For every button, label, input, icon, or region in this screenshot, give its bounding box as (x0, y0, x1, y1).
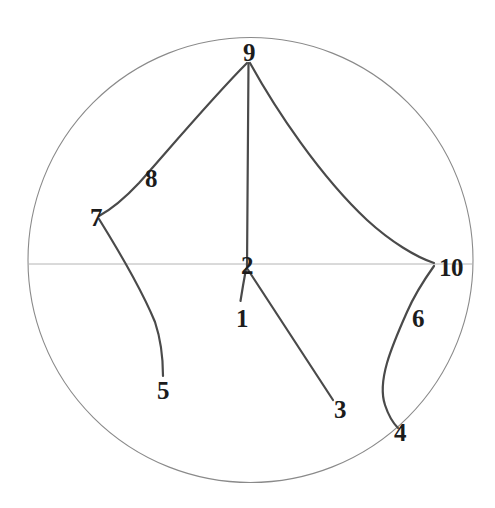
geodesic-edge-2-3 (248, 269, 334, 400)
geodesic-edge-9-7 (99, 63, 247, 216)
node-label-6: 6 (412, 306, 424, 331)
node-label-7: 7 (90, 205, 102, 230)
geodesic-edge-9-10 (250, 63, 434, 263)
geodesic-edge-7-5 (99, 219, 163, 376)
geodesic-edge-10-4 (383, 266, 434, 428)
node-label-9: 9 (243, 40, 255, 65)
node-label-10: 10 (439, 255, 463, 280)
node-label-8: 8 (145, 166, 157, 191)
geodesic-edge-2-9 (247, 63, 249, 268)
node-label-5: 5 (157, 378, 169, 403)
node-label-1: 1 (236, 306, 248, 331)
node-label-3: 3 (334, 397, 346, 422)
node-label-2: 2 (241, 253, 253, 278)
node-label-4: 4 (394, 420, 406, 445)
geodesic-group (99, 63, 434, 428)
hyperbolic-disk-figure: 1 2 3 4 5 6 7 8 9 10 (0, 0, 495, 508)
